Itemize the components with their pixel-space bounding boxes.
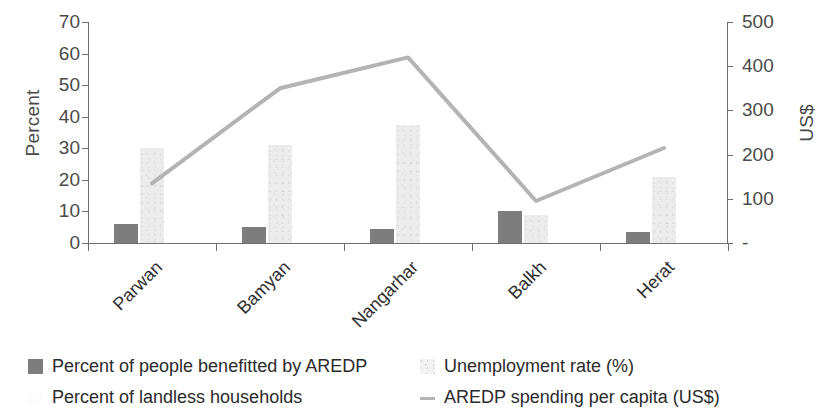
y-tick-label-left-70: 70	[24, 12, 80, 31]
legend-item-aredp-spending: AREDP spending per capita (US$)	[420, 383, 720, 411]
x-tickmark	[216, 243, 217, 251]
y-tick-label-right-200: 200	[742, 145, 798, 164]
x-label-balkh: Balkh	[451, 257, 551, 357]
legend-swatch-white-square	[28, 390, 43, 405]
legend-item-landless: Percent of landless households	[28, 383, 302, 411]
legend-item-unemployment: Unemployment rate (%)	[420, 352, 634, 380]
y-tick-label-left-30: 30	[24, 138, 80, 157]
y-tick-label-left-40: 40	[24, 107, 80, 126]
y-tick-label-right-400: 400	[742, 56, 798, 75]
y-tick-label-left-10: 10	[24, 201, 80, 220]
legend-swatch-speckled-light-square	[420, 359, 435, 374]
x-label-parwan: Parwan	[67, 257, 167, 357]
legend-label-benefitted: Percent of people benefitted by AREDP	[52, 356, 367, 377]
y-tick-label-right-0: -	[742, 233, 798, 252]
legend-item-benefitted: Percent of people benefitted by AREDP	[28, 352, 367, 380]
x-axis-line	[84, 243, 732, 244]
legend-label-landless: Percent of landless households	[52, 387, 302, 408]
combo-chart: Percent US$ 010203040506070 -10020030040…	[0, 0, 816, 417]
y-tick-label-left-0: 0	[24, 233, 80, 252]
plot-area	[88, 22, 728, 243]
legend-swatch-gray-line	[420, 390, 435, 405]
y-tick-label-right-500: 500	[742, 12, 798, 31]
x-tickmark	[472, 243, 473, 251]
x-label-herat: Herat	[579, 257, 679, 357]
legend-label-aredp-spending: AREDP spending per capita (US$)	[444, 387, 720, 408]
y-tick-label-right-100: 100	[742, 189, 798, 208]
y-axis-title-right: US$	[796, 78, 816, 168]
y-tick-label-left-20: 20	[24, 170, 80, 189]
chart-legend: Percent of people benefitted by AREDP Un…	[0, 352, 816, 417]
y-tick-label-right-300: 300	[742, 100, 798, 119]
line-series-aredp-spending	[88, 22, 728, 243]
legend-swatch-dark-gray-square	[28, 359, 43, 374]
x-tickmark	[88, 243, 89, 251]
y-tick-label-left-60: 60	[24, 44, 80, 63]
x-tickmark	[728, 243, 729, 251]
y-tick-label-left-50: 50	[24, 75, 80, 94]
x-label-bamyan: Bamyan	[195, 257, 295, 357]
x-label-nangarhar: Nangarhar	[323, 257, 423, 357]
x-tickmark	[344, 243, 345, 251]
legend-label-unemployment: Unemployment rate (%)	[444, 356, 634, 377]
x-tickmark	[600, 243, 601, 251]
